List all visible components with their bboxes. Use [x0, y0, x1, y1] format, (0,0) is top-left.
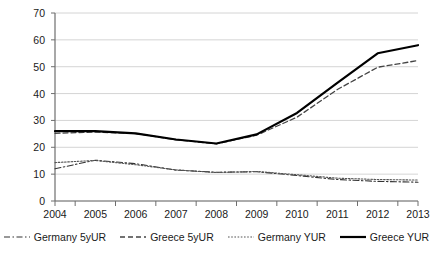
x-tick-label-2008: 2008	[196, 209, 236, 220]
legend-item-germany-5yur[interactable]: Germany 5yUR	[4, 231, 106, 243]
solid-line-icon	[340, 232, 366, 242]
series-line-germany-yur	[55, 160, 418, 180]
legend-label: Germany YUR	[258, 231, 326, 243]
y-tick-label-40: 40	[23, 89, 45, 99]
x-tick-label-2010: 2010	[277, 209, 317, 220]
x-tick-label-2006: 2006	[116, 209, 156, 220]
dotted-line-icon	[228, 232, 254, 242]
y-tick-label-20: 20	[23, 142, 45, 152]
y-tick-label-10: 10	[23, 169, 45, 179]
x-tick-label-2005: 2005	[75, 209, 115, 220]
x-tick-label-2004: 2004	[35, 209, 75, 220]
x-tick-label-2013: 2013	[398, 209, 433, 220]
y-tick-label-0: 0	[23, 196, 45, 206]
x-tick-label-2007: 2007	[156, 209, 196, 220]
chart-legend: Germany 5yURGreece 5yURGermany YURGreece…	[0, 226, 433, 248]
y-tick-label-60: 60	[23, 35, 45, 45]
y-tick-label-50: 50	[23, 62, 45, 72]
dash-dot-line-icon	[4, 232, 30, 242]
legend-item-germany-yur[interactable]: Germany YUR	[228, 231, 326, 243]
x-tick-label-2012: 2012	[358, 209, 398, 220]
legend-label: Greece 5yUR	[150, 231, 214, 243]
legend-label: Greece YUR	[370, 231, 429, 243]
series-line-greece-yur	[55, 45, 418, 143]
line-chart: 706050403020100 200420052006200720082009…	[0, 0, 433, 258]
series-line-germany-5yur	[55, 160, 418, 182]
dashed-line-icon	[120, 232, 146, 242]
legend-item-greece-yur[interactable]: Greece YUR	[340, 231, 429, 243]
x-tick-label-2009: 2009	[237, 209, 277, 220]
y-tick-label-70: 70	[23, 8, 45, 18]
y-tick-label-30: 30	[23, 115, 45, 125]
legend-item-greece-5yur[interactable]: Greece 5yUR	[120, 231, 214, 243]
legend-label: Germany 5yUR	[34, 231, 106, 243]
x-tick-label-2011: 2011	[317, 209, 357, 220]
